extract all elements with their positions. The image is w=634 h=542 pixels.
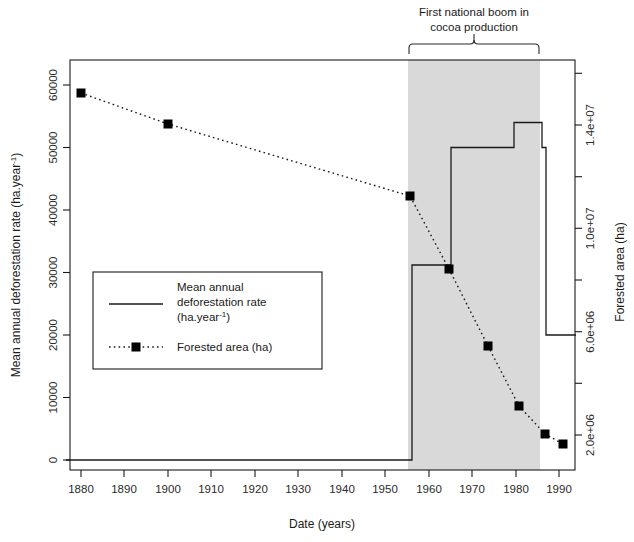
y-left-tick-label-10000: 10000 — [47, 382, 59, 414]
y-right-tick-label-14e07: 1.4e+07 — [584, 104, 596, 146]
x-tick-label-1950: 1950 — [372, 483, 398, 495]
forested-area-marker-1974 — [484, 342, 493, 351]
y-left-title-seg1: Mean annual deforestation rate (ha — [9, 190, 23, 377]
forested-area-marker-1880 — [77, 89, 86, 98]
x-tick-label-1970: 1970 — [459, 483, 485, 495]
y-left-title-seg2: .year — [9, 164, 23, 191]
y-left-tick-label-20000: 20000 — [47, 319, 59, 351]
y-left-tick-label-60000: 60000 — [47, 69, 59, 101]
chart-legend: Mean annual deforestation rate (ha.year-… — [93, 272, 322, 369]
y-left-tick-label-30000: 30000 — [47, 257, 59, 289]
y-right-tick-label-2e06: 2.0e+06 — [584, 414, 596, 456]
forested-area-marker-1965 — [445, 265, 454, 274]
x-tick-label-1920: 1920 — [242, 483, 268, 495]
x-tick-label-1960: 1960 — [416, 483, 442, 495]
x-tick-label-1930: 1930 — [285, 483, 311, 495]
forested-area-marker-1991 — [559, 440, 568, 449]
legend-label-deforestation-line1: Mean annual — [177, 281, 244, 293]
y-axis-left-title: Mean annual deforestation rate (ha.year-… — [9, 153, 23, 378]
x-axis-title: Date (years) — [289, 517, 355, 531]
forested-area-marker-1987 — [541, 430, 550, 439]
chart-svg: First national boom in cocoa production … — [0, 0, 634, 542]
x-tick-label-1940: 1940 — [329, 483, 355, 495]
forested-area-marker-1956 — [406, 192, 415, 201]
boom-annotation-line1: First national boom in — [419, 6, 529, 18]
x-tick-label-1990: 1990 — [546, 483, 572, 495]
deforestation-cocoa-chart: First national boom in cocoa production … — [0, 0, 634, 542]
legend-swatch-forested-marker — [132, 343, 141, 352]
x-tick-label-1880: 1880 — [68, 483, 94, 495]
y-left-title-seg3: ) — [9, 153, 23, 157]
x-tick-label-1890: 1890 — [111, 483, 137, 495]
y-axis-right-title: Forested area (ha) — [613, 222, 627, 321]
y-left-tick-label-0: 0 — [47, 457, 59, 463]
legend-units-pre: (ha.year — [177, 311, 219, 323]
x-tick-label-1900: 1900 — [155, 483, 181, 495]
y-left-tick-label-40000: 40000 — [47, 194, 59, 226]
forested-area-marker-1981 — [515, 402, 524, 411]
x-tick-label-1980: 1980 — [503, 483, 529, 495]
boom-annotation-line2: cocoa production — [430, 21, 518, 33]
x-tick-label-1910: 1910 — [198, 483, 224, 495]
legend-label-deforestation-line2: deforestation rate — [177, 296, 267, 308]
y-right-tick-label-1e07: 1.0e+07 — [584, 207, 596, 249]
legend-units-post: ) — [226, 311, 230, 323]
forested-area-marker-1900 — [164, 120, 173, 129]
y-left-tick-label-50000: 50000 — [47, 132, 59, 164]
y-right-tick-label-6e06: 6.0e+06 — [584, 311, 596, 353]
legend-label-forested-area: Forested area (ha) — [177, 341, 272, 353]
